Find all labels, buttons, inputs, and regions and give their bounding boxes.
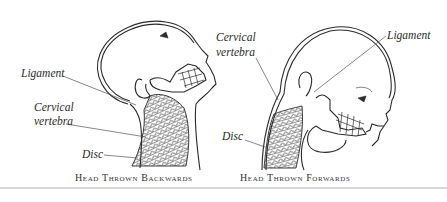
label-disc-forwards: Disc <box>222 130 243 143</box>
whiplash-diagram: Ligament Cervical vertebra Disc Cervical… <box>0 0 447 202</box>
label-ligament-backwards: Ligament <box>21 67 64 80</box>
caption-backwards: Head Thrown Backwards <box>75 172 193 183</box>
label-cervical-forwards: Cervical <box>216 31 256 44</box>
divider-rule <box>0 187 447 189</box>
figure-backwards <box>98 21 216 170</box>
label-ligament-forwards: Ligament <box>387 29 430 42</box>
label-vertebra-forwards: vertebra <box>216 46 255 59</box>
figure-forwards <box>262 27 395 170</box>
label-cervical-backwards: Cervical <box>34 101 74 114</box>
caption-forwards: Head Thrown Forwards <box>240 172 350 183</box>
label-vertebra-backwards: vertebra <box>34 115 73 128</box>
label-disc-backwards: Disc <box>82 148 103 161</box>
